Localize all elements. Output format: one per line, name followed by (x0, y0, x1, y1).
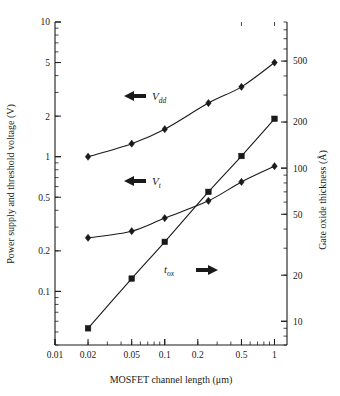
y2-tick-label: 100 (293, 164, 308, 174)
y-tick-label: 0.5 (38, 193, 50, 203)
data-point-tox (206, 189, 212, 195)
x-axis-title: MOSFET channel length (μm) (110, 374, 233, 386)
data-point-tox (272, 116, 278, 122)
x-tick-label: 0.01 (47, 350, 64, 360)
y-tick-label: 1 (45, 152, 50, 162)
data-point-tox (85, 325, 91, 331)
data-point-tox (239, 153, 245, 159)
y2-tick-label: 200 (293, 117, 308, 127)
chart-canvas: 0.010.020.050.10.20.51 105210.50.20.1 50… (0, 0, 340, 396)
chart-background (0, 0, 340, 396)
x-tick-label: 0.02 (80, 350, 97, 360)
y2-tick-label: 20 (293, 271, 303, 281)
x-tick-label: 0.2 (192, 350, 204, 360)
x-tick-label: 0.1 (159, 350, 171, 360)
y-right-axis-title: Gate oxide thickness (Å) (317, 150, 329, 250)
data-point-tox (162, 239, 168, 245)
y-tick-label: 0.2 (38, 246, 50, 256)
mosfet-scaling-chart: 0.010.020.050.10.20.51 105210.50.20.1 50… (0, 0, 340, 396)
y-tick-label: 5 (45, 58, 50, 68)
y2-tick-label: 10 (293, 317, 303, 327)
x-tick-label: 1 (272, 350, 277, 360)
x-axis-tick-labels: 0.010.020.050.10.20.51 (47, 350, 277, 360)
y-tick-label: 0.1 (38, 287, 50, 297)
y-tick-label: 10 (41, 17, 51, 27)
x-tick-label: 0.5 (236, 350, 248, 360)
y2-tick-label: 50 (293, 210, 303, 220)
y2-tick-label: 500 (293, 56, 308, 66)
y-tick-label: 2 (45, 112, 50, 122)
y-left-axis-title: Power supply and threshold voltage (V) (5, 104, 17, 264)
x-tick-label: 0.05 (123, 350, 140, 360)
data-point-tox (129, 276, 135, 282)
